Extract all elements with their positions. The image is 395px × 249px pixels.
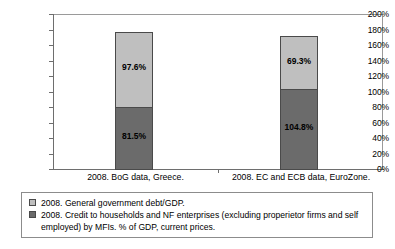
x-axis-label-greece: 2008. BoG data, Greece. (53, 172, 218, 183)
bar-segment-greece-govt-debt[interactable]: 97.6% (115, 32, 153, 108)
chart-legend: 2008. General government debt/GDP. 2008.… (21, 192, 373, 238)
stacked-bar-eurozone[interactable]: 69.3% 104.8% (280, 36, 318, 169)
bar-label-eurozone-govt-debt: 69.3% (281, 57, 317, 66)
bars-layer: 97.6% 81.5% 69.3% 104.8% (53, 14, 384, 169)
plot-area: 200% 180% 160% 140% 120% 100% 80% 60% 40… (0, 0, 395, 190)
bar-segment-eurozone-credit[interactable]: 104.8% (280, 89, 318, 170)
x-axis-label-eurozone: 2008. EC and ECB data, EuroZone. (218, 172, 384, 183)
legend-label-credit: 2008. Credit to households and NF enterp… (41, 210, 367, 233)
legend-label-govt-debt: 2008. General government debt/GDP. (41, 198, 185, 210)
bar-label-greece-credit: 81.5% (116, 132, 152, 141)
bar-group-eurozone[interactable]: 69.3% 104.8% (280, 14, 318, 169)
legend-swatch-icon-credit (29, 211, 36, 218)
legend-item-govt-debt[interactable]: 2008. General government debt/GDP. (29, 198, 367, 210)
bar-segment-eurozone-govt-debt[interactable]: 69.3% (280, 36, 318, 90)
bar-label-greece-govt-debt: 97.6% (116, 63, 152, 72)
stacked-bar-greece[interactable]: 97.6% 81.5% (115, 32, 153, 169)
legend-swatch-icon-govt-debt (29, 199, 36, 206)
bar-segment-greece-credit[interactable]: 81.5% (115, 107, 153, 170)
y-tick-mark-0 (49, 169, 53, 170)
x-axis-labels: 2008. BoG data, Greece. 2008. EC and ECB… (53, 172, 384, 188)
bar-group-greece[interactable]: 97.6% 81.5% (115, 14, 153, 169)
bar-label-eurozone-credit: 104.8% (281, 123, 317, 132)
legend-label-credit-line1: 2008. Credit to households and NF enterp… (41, 210, 342, 220)
chart-figure: 200% 180% 160% 140% 120% 100% 80% 60% 40… (0, 0, 395, 249)
legend-item-credit[interactable]: 2008. Credit to households and NF enterp… (29, 210, 367, 233)
